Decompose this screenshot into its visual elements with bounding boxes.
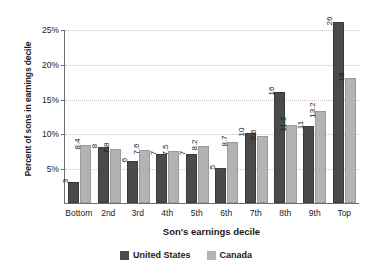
bar-value-label: 7 <box>183 151 191 155</box>
y-axis-tick-label: 5% <box>47 164 59 174</box>
bar-group: 78.2 <box>183 30 212 203</box>
bar-group: 109.6 <box>241 30 270 203</box>
bar-value-label: 7.5 <box>166 144 174 155</box>
legend-label: Canada <box>220 250 253 260</box>
legend-item: Canada <box>207 250 253 260</box>
bar-value-label: 26 <box>330 17 338 26</box>
bar-value-label: 7.8 <box>107 142 115 153</box>
bar-chart: Percent of sons in earnings decile 5%10%… <box>0 0 372 275</box>
y-axis-tick-label: 15% <box>42 95 59 105</box>
bar-group: 2618 <box>330 30 359 203</box>
bar-value-label: 8.4 <box>78 138 86 149</box>
bar: 7 <box>186 154 197 203</box>
bar-value-label: 11.2 <box>284 117 292 132</box>
bar-group: 1113.2 <box>300 30 329 203</box>
bar: 13.2 <box>315 111 326 203</box>
bar: 3 <box>68 182 79 203</box>
bar: 8.4 <box>80 145 91 203</box>
bar-value-label: 13.2 <box>313 102 321 118</box>
bar: 8.2 <box>198 146 209 203</box>
x-axis-title: Son's earnings decile <box>64 226 359 237</box>
bar-group: 58.7 <box>212 30 241 203</box>
x-axis-tick-labels: Bottom2nd3rd4th5th6th7th8th9thTop <box>64 208 359 218</box>
x-axis-tick-label: 3rd <box>123 208 153 218</box>
bar: 16 <box>274 92 285 203</box>
legend-swatch <box>207 251 216 260</box>
y-axis-tick-label: 10% <box>42 129 59 139</box>
bar-value-label: 5 <box>213 165 221 169</box>
bar-value-label: 7.6 <box>137 144 145 155</box>
bar: 7.6 <box>139 150 150 203</box>
bar-group: 38.4 <box>65 30 94 203</box>
bar: 11.2 <box>286 125 297 203</box>
bar: 7.8 <box>110 149 121 203</box>
y-axis-tick-label: 25% <box>42 25 59 35</box>
chart-legend: United StatesCanada <box>0 250 372 260</box>
y-axis-tick-label: 20% <box>42 60 59 70</box>
x-axis-tick-label: 2nd <box>94 208 124 218</box>
bar: 9.6 <box>257 136 268 203</box>
bar-value-label: 3 <box>66 179 74 183</box>
x-axis-tick-label: 6th <box>212 208 242 218</box>
bar-value-label: 8.2 <box>195 139 203 150</box>
legend-swatch <box>120 251 129 260</box>
legend-item: United States <box>120 250 191 260</box>
legend-label: United States <box>133 250 191 260</box>
plot-area: 5%10%15%20%25% 38.487.867.677.578.258.71… <box>64 30 359 204</box>
bar-group: 87.8 <box>94 30 123 203</box>
bar: 5 <box>215 168 226 203</box>
x-axis-tick-label: 7th <box>241 208 271 218</box>
bar-value-label: 11 <box>301 121 309 129</box>
x-axis-tick-label: 4th <box>153 208 183 218</box>
bar: 18 <box>345 78 356 203</box>
bar: 10 <box>245 133 256 203</box>
bar-value-label: 9.6 <box>254 130 262 141</box>
bar-value-label: 18 <box>342 72 350 81</box>
bar: 7 <box>156 154 167 203</box>
bar-value-label: 6 <box>125 158 133 162</box>
bar-value-label: 16 <box>272 86 280 95</box>
bar-group: 67.6 <box>124 30 153 203</box>
y-axis-title: Percent of sons in earnings decile <box>23 9 33 209</box>
bar-group: 1611.2 <box>271 30 300 203</box>
bar: 8.7 <box>227 142 238 203</box>
bar: 11 <box>303 126 314 203</box>
x-axis-tick-label: 5th <box>182 208 212 218</box>
x-axis-tick-label: Bottom <box>64 208 94 218</box>
x-axis-tick-label: Top <box>330 208 360 218</box>
bar: 8 <box>98 147 109 203</box>
bar-value-label: 8.7 <box>225 136 233 147</box>
bar: 26 <box>333 22 344 203</box>
bar: 7.5 <box>168 151 179 203</box>
x-axis-tick-label: 8th <box>271 208 301 218</box>
bar-groups: 38.487.867.677.578.258.7109.61611.21113.… <box>65 30 359 203</box>
bar-group: 77.5 <box>153 30 182 203</box>
x-axis-tick-label: 9th <box>300 208 330 218</box>
bar: 6 <box>127 161 138 203</box>
